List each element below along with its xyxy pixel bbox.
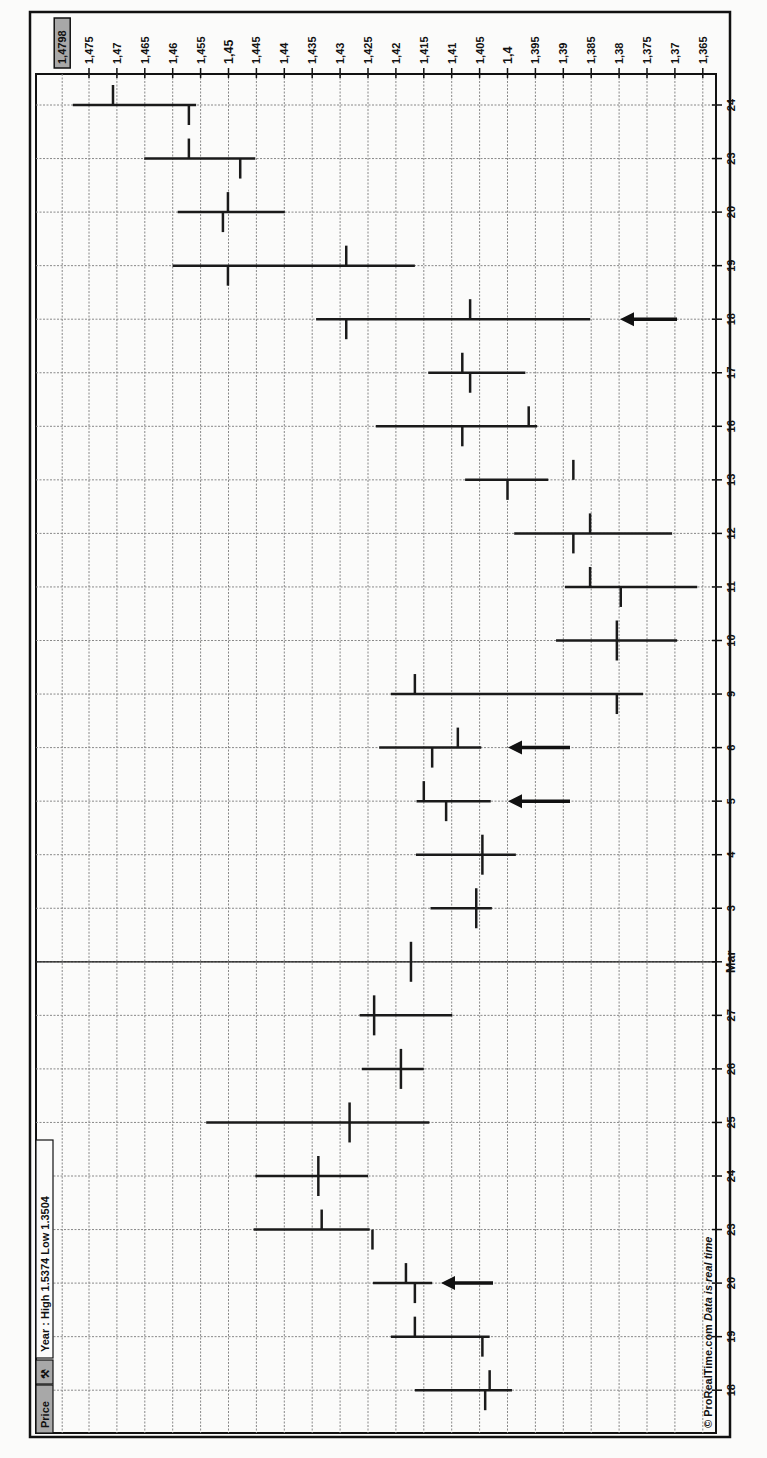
date-label: 12 bbox=[725, 527, 737, 539]
price-label: 1,47 bbox=[111, 43, 123, 64]
price-label: 1,39 bbox=[557, 43, 569, 64]
date-label: 20 bbox=[725, 1277, 737, 1289]
date-label: 16 bbox=[725, 420, 737, 432]
ohlc-bar bbox=[360, 995, 453, 1035]
ohlc-bar bbox=[178, 192, 285, 232]
date-label: 5 bbox=[725, 798, 737, 804]
ohlc-bar bbox=[428, 353, 525, 393]
ohlc-bar bbox=[362, 1049, 424, 1089]
wrench-icon: ⚒ bbox=[39, 1369, 51, 1379]
date-label: 27 bbox=[725, 1009, 737, 1021]
price-label: 1,43 bbox=[334, 43, 346, 64]
price-label: 1,41 bbox=[446, 43, 458, 64]
realtime-note: Data is real time bbox=[702, 1237, 714, 1321]
ohlc-bar bbox=[391, 674, 643, 714]
ohlc-bar bbox=[556, 621, 677, 661]
date-label: 13 bbox=[725, 474, 737, 486]
price-label: 1,455 bbox=[195, 36, 207, 64]
price-label: 1,46 bbox=[167, 43, 179, 64]
ohlc-bar bbox=[173, 246, 415, 286]
date-label: 23 bbox=[725, 1223, 737, 1235]
date-label: 11 bbox=[725, 581, 737, 593]
arrow-annotation-icon bbox=[508, 741, 570, 755]
ohlc-bar bbox=[465, 460, 573, 500]
outer-frame bbox=[30, 12, 730, 1437]
ohlc-bar bbox=[565, 567, 697, 607]
current-price-label: 1,4798 bbox=[56, 30, 68, 64]
price-label: 1,42 bbox=[390, 43, 402, 64]
price-label: 1,385 bbox=[585, 36, 597, 64]
price-label: 1,375 bbox=[641, 36, 653, 64]
date-label: 3 bbox=[725, 905, 737, 911]
arrow-annotation-icon bbox=[620, 312, 677, 326]
ohlc-bar bbox=[254, 1210, 373, 1250]
chart-header: Price⚒Year : High 1.5374 Low 1.3504 bbox=[36, 1140, 53, 1433]
price-label: 1,475 bbox=[83, 36, 95, 64]
ohlc-bar bbox=[416, 835, 516, 875]
copyright-text: © ProRealTime.com Data is real time bbox=[702, 1237, 714, 1428]
arrow-annotation-icon bbox=[508, 794, 570, 808]
ohlc-bar bbox=[430, 888, 491, 928]
date-label: Mar bbox=[724, 951, 738, 973]
ohlc-bar bbox=[73, 85, 196, 125]
date-label: 19 bbox=[725, 1331, 737, 1343]
ohlc-bar bbox=[417, 781, 491, 821]
date-label: 23 bbox=[725, 152, 737, 164]
arrow-annotation-icon bbox=[441, 1276, 493, 1290]
ohlc-bar bbox=[391, 1317, 490, 1357]
price-label: 1,37 bbox=[669, 43, 681, 64]
price-label: 1,44 bbox=[278, 42, 290, 64]
ohlc-bar bbox=[373, 1263, 432, 1303]
price-label: 1,365 bbox=[697, 36, 709, 64]
date-label: 20 bbox=[725, 206, 737, 218]
date-label: 26 bbox=[725, 1063, 737, 1075]
price-label: 1,445 bbox=[250, 36, 262, 64]
date-label: 25 bbox=[725, 1116, 737, 1128]
price-label: 1,38 bbox=[613, 43, 625, 64]
ohlc-bar bbox=[376, 406, 537, 446]
range-text: Year : High 1.5374 Low 1.3504 bbox=[39, 1195, 51, 1352]
date-label: 24 bbox=[725, 1169, 737, 1182]
price-label: 1,45 bbox=[222, 40, 236, 64]
ohlc-bar bbox=[255, 1156, 368, 1196]
date-label: 19 bbox=[725, 260, 737, 272]
date-label: 6 bbox=[725, 745, 737, 751]
price-label: 1,425 bbox=[362, 36, 374, 64]
price-label: 1,405 bbox=[474, 36, 486, 64]
price-label: 1,465 bbox=[139, 36, 151, 64]
price-label: 1,435 bbox=[306, 36, 318, 64]
price-label: 1,395 bbox=[529, 36, 541, 64]
date-label: 9 bbox=[725, 691, 737, 697]
price-label: 1,4 bbox=[501, 47, 515, 64]
ohlc-bar bbox=[144, 139, 255, 179]
ohlc-chart: 1819202324252627Mar345691011121316171819… bbox=[0, 0, 767, 1458]
date-label: 4 bbox=[725, 851, 737, 858]
ohlc-bar bbox=[316, 299, 590, 339]
ohlc-bar bbox=[379, 728, 481, 768]
ohlc-bar bbox=[514, 513, 672, 553]
date-label: 18 bbox=[725, 1384, 737, 1396]
date-label: 10 bbox=[725, 634, 737, 646]
ohlc-bar bbox=[415, 1370, 512, 1410]
date-label: 24 bbox=[725, 98, 737, 111]
date-label: 17 bbox=[725, 367, 737, 379]
price-label: 1,415 bbox=[418, 36, 430, 64]
date-label: 18 bbox=[725, 313, 737, 325]
price-tab-label: Price bbox=[39, 1401, 51, 1428]
